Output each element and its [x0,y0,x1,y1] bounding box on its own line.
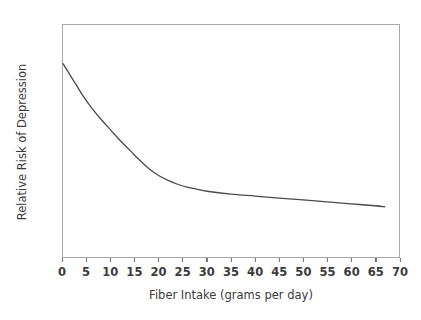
series-line-relative-risk [63,25,399,257]
x-axis-tick: 35 [223,258,239,279]
x-axis-tick-mark [158,258,159,262]
x-axis-tick-label: 40 [247,265,263,279]
x-axis-tick-mark [303,258,304,262]
x-axis-tick-mark [255,258,256,262]
x-axis-tick: 30 [199,258,215,279]
x-axis-tick-mark [182,258,183,262]
x-axis-tick-label: 45 [271,265,287,279]
x-axis-tick-mark [279,258,280,262]
x-axis-tick-mark [230,258,231,262]
x-axis-tick: 60 [344,258,360,279]
x-axis-tick-label: 50 [295,265,311,279]
x-axis-tick-label: 65 [368,265,384,279]
chart-figure: 0.00.10.20.30.40.50.60.70.80.91.01.11.2 … [0,0,421,320]
x-axis-tick-label: 70 [392,265,408,279]
x-axis-tick: 55 [319,258,335,279]
x-axis-tick: 70 [392,258,408,279]
x-axis-tick-mark [351,258,352,262]
x-axis-tick: 50 [295,258,311,279]
x-axis-tick-mark [399,258,400,262]
x-axis: 0510152025303540455055606570 [0,258,421,288]
x-axis-tick-mark [61,258,62,262]
x-axis-tick: 65 [368,258,384,279]
x-axis-tick-label: 15 [126,265,142,279]
y-axis-label: Relative Risk of Depression [14,25,30,259]
x-axis-tick: 20 [150,258,166,279]
x-axis-tick: 10 [102,258,118,279]
x-axis-tick-label: 5 [82,265,90,279]
x-axis-tick: 25 [175,258,191,279]
x-axis-tick-mark [134,258,135,262]
x-axis-tick-label: 35 [223,265,239,279]
plot-area [62,24,400,258]
x-axis-tick-mark [327,258,328,262]
x-axis-tick-label: 55 [319,265,335,279]
x-axis-tick-label: 30 [199,265,215,279]
x-axis-tick-label: 60 [344,265,360,279]
x-axis-tick-mark [86,258,87,262]
x-axis-tick-mark [206,258,207,262]
x-axis-label: Fiber Intake (grams per day) [62,288,400,302]
x-axis-tick-label: 25 [175,265,191,279]
x-axis-tick: 0 [58,258,66,279]
x-axis-tick: 15 [126,258,142,279]
x-axis-tick: 40 [247,258,263,279]
x-axis-tick-mark [110,258,111,262]
x-axis-tick: 5 [82,258,90,279]
x-axis-tick-label: 0 [58,265,66,279]
x-axis-tick-label: 20 [150,265,166,279]
x-axis-tick-label: 10 [102,265,118,279]
x-axis-tick: 45 [271,258,287,279]
x-axis-tick-mark [375,258,376,262]
